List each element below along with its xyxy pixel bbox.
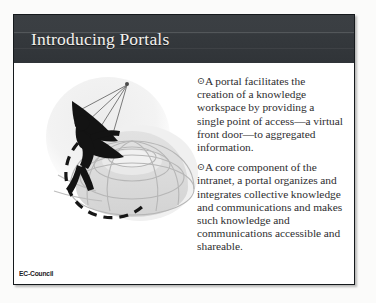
bullet-text-1: A portal facilitates the creation of a k… <box>197 75 343 153</box>
bullet-glyph-icon: ⊙ <box>197 76 205 86</box>
portal-illustration <box>32 65 200 245</box>
bullet-text-2: A core component of the intranet, a port… <box>197 161 342 252</box>
bullet-paragraph-2: ⊙A core component of the intranet, a por… <box>197 161 343 253</box>
bullet-paragraph-1: ⊙A portal facilitates the creation of a … <box>197 75 343 154</box>
bullet-glyph-icon: ⊙ <box>197 162 205 172</box>
ec-council-footer-logo: EC-Council <box>19 269 53 278</box>
slide-text-column: ⊙A portal facilitates the creation of a … <box>197 75 343 261</box>
person-with-antenna-over-wireframe-dome-icon <box>32 65 200 245</box>
presentation-slide: Introducing Portals <box>13 14 355 285</box>
slide-body: ⊙A portal facilitates the creation of a … <box>14 63 354 284</box>
slide-title: Introducing Portals <box>31 31 169 49</box>
slide-title-bar: Introducing Portals <box>14 15 354 63</box>
